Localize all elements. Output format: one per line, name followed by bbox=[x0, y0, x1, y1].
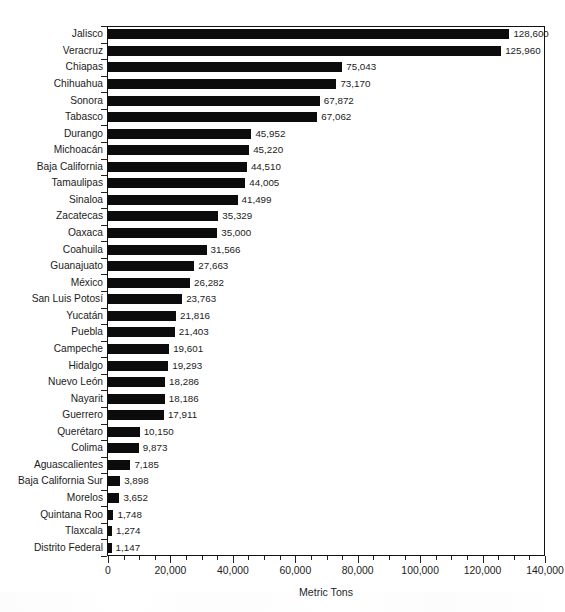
category-label: Tlaxcala bbox=[65, 526, 103, 536]
bar-row: Durango45,952 bbox=[0, 125, 565, 142]
bar bbox=[108, 443, 139, 453]
category-label: Colima bbox=[71, 443, 103, 453]
y-axis-tick bbox=[101, 109, 107, 110]
x-axis-minor-tick bbox=[498, 556, 499, 560]
bar-value-label: 45,952 bbox=[255, 129, 285, 139]
y-axis-tick bbox=[101, 125, 107, 126]
y-axis-tick bbox=[101, 175, 107, 176]
y-axis-tick bbox=[101, 192, 107, 193]
y-axis-tick bbox=[101, 556, 107, 557]
bar bbox=[108, 493, 119, 503]
bar bbox=[108, 344, 169, 354]
category-label: Nuevo León bbox=[48, 377, 103, 387]
bar-value-label: 19,601 bbox=[173, 344, 203, 354]
bar-row: Distrito Federal1,147 bbox=[0, 539, 565, 556]
bar-value-label: 18,186 bbox=[169, 394, 199, 404]
x-axis-minor-tick bbox=[373, 556, 374, 560]
x-axis-minor-tick bbox=[389, 556, 390, 560]
bar-value-label: 45,220 bbox=[253, 145, 283, 155]
bar bbox=[108, 261, 194, 271]
category-label: Quintana Roo bbox=[40, 509, 103, 519]
bar-row: Veracruz125,960 bbox=[0, 43, 565, 60]
x-axis-major-tick bbox=[545, 556, 546, 563]
bar-value-label: 31,566 bbox=[211, 245, 241, 255]
bar-row: Coahuila31,566 bbox=[0, 241, 565, 258]
x-axis-major-tick bbox=[420, 556, 421, 563]
bar bbox=[108, 62, 342, 72]
x-axis-tick-label: 80,000 bbox=[342, 566, 374, 576]
x-axis-minor-tick bbox=[514, 556, 515, 560]
x-axis-minor-tick bbox=[202, 556, 203, 560]
bar-row: Zacatecas35,329 bbox=[0, 208, 565, 225]
x-axis-minor-tick bbox=[155, 556, 156, 560]
bar bbox=[108, 476, 120, 486]
category-label: Hidalgo bbox=[68, 360, 103, 370]
x-axis-title: Metric Tons bbox=[107, 586, 545, 598]
bar bbox=[108, 510, 113, 520]
bar-row: Sonora67,872 bbox=[0, 92, 565, 109]
bar bbox=[108, 377, 165, 387]
category-label: Aguascalientes bbox=[34, 460, 103, 470]
bar bbox=[108, 410, 164, 420]
y-axis-tick bbox=[101, 473, 107, 474]
y-axis-tick bbox=[101, 26, 107, 27]
x-axis-minor-tick bbox=[280, 556, 281, 560]
x-axis-minor-tick bbox=[467, 556, 468, 560]
bar-value-label: 10,150 bbox=[144, 427, 174, 437]
y-axis-tick bbox=[101, 374, 107, 375]
category-label: Baja California bbox=[37, 162, 103, 172]
bar-row: San Luis Potosí23,763 bbox=[0, 291, 565, 308]
bar-row: Tamaulipas44,005 bbox=[0, 175, 565, 192]
bar-row: Aguascalientes7,185 bbox=[0, 457, 565, 474]
bar-row: Querétaro10,150 bbox=[0, 424, 565, 441]
bar-value-label: 41,499 bbox=[242, 195, 272, 205]
bar bbox=[108, 112, 317, 122]
category-label: Sonora bbox=[70, 95, 103, 105]
bar-row: Puebla21,403 bbox=[0, 324, 565, 341]
bar-value-label: 1,748 bbox=[117, 510, 142, 520]
y-axis-tick bbox=[101, 274, 107, 275]
bar-value-label: 3,652 bbox=[123, 493, 148, 503]
bar bbox=[108, 394, 165, 404]
y-axis-tick bbox=[101, 390, 107, 391]
category-label: Sinaloa bbox=[69, 195, 103, 205]
y-axis-tick bbox=[101, 291, 107, 292]
x-axis-minor-tick bbox=[436, 556, 437, 560]
y-axis-tick bbox=[101, 241, 107, 242]
bar-value-label: 18,286 bbox=[169, 377, 199, 387]
y-axis-tick bbox=[101, 208, 107, 209]
bar-row: Yucatán21,816 bbox=[0, 308, 565, 325]
bar bbox=[108, 178, 245, 188]
x-axis-minor-tick bbox=[342, 556, 343, 560]
bar bbox=[108, 327, 175, 337]
category-label: Baja California Sur bbox=[18, 476, 103, 486]
x-axis-minor-tick bbox=[405, 556, 406, 560]
y-axis-tick bbox=[101, 523, 107, 524]
bar-value-label: 1,274 bbox=[116, 526, 141, 536]
category-label: Chihuahua bbox=[54, 79, 103, 89]
bar-value-label: 35,329 bbox=[222, 212, 252, 222]
bar-row: Baja California Sur3,898 bbox=[0, 473, 565, 490]
y-axis-tick bbox=[101, 506, 107, 507]
category-label: Nayarit bbox=[71, 394, 103, 404]
bar-value-label: 19,293 bbox=[172, 361, 202, 371]
category-label: San Luis Potosí bbox=[32, 294, 103, 304]
category-label: Chiapas bbox=[66, 62, 103, 72]
x-axis-major-tick bbox=[108, 556, 109, 563]
bar bbox=[108, 245, 207, 255]
bar-value-label: 73,170 bbox=[340, 79, 370, 89]
bar bbox=[108, 294, 182, 304]
bar-value-label: 1,147 bbox=[116, 543, 141, 553]
y-axis-tick bbox=[101, 357, 107, 358]
bar-value-label: 26,282 bbox=[194, 278, 224, 288]
bar-row: Michoacán45,220 bbox=[0, 142, 565, 159]
category-label: Guerrero bbox=[62, 410, 103, 420]
bar-row: Morelos3,652 bbox=[0, 490, 565, 507]
y-axis-tick bbox=[101, 424, 107, 425]
bar-row: México26,282 bbox=[0, 274, 565, 291]
bar-value-label: 44,005 bbox=[249, 178, 279, 188]
bar-value-label: 75,043 bbox=[346, 63, 376, 73]
category-label: Michoacán bbox=[54, 145, 103, 155]
bar-row: Chihuahua73,170 bbox=[0, 76, 565, 93]
x-axis-minor-tick bbox=[186, 556, 187, 560]
